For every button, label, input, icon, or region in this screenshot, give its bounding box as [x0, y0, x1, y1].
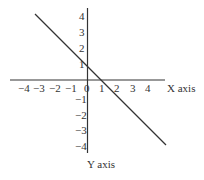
y-tick-label: 3 [79, 26, 85, 38]
y-tick-label: 2 [79, 42, 85, 54]
x-tick-label: 1 [99, 82, 105, 94]
x-tick-label: 3 [130, 82, 136, 94]
y-axis-label: Y axis [87, 158, 115, 170]
chart: −4 −3 −2 −1 0 1 2 3 4 X axis 4 3 2 1 −1 … [0, 0, 204, 180]
y-tick-label: 1 [79, 58, 85, 70]
y-tick-label: −3 [75, 124, 87, 136]
y-tick-label: −2 [75, 109, 87, 121]
x-tick-label: −3 [33, 82, 45, 94]
x-tick-label: 4 [145, 82, 151, 94]
x-tick-label: −4 [18, 82, 30, 94]
y-tick-label: −1 [75, 93, 87, 105]
x-axis-label: X axis [167, 82, 195, 94]
y-tick-label: −4 [75, 140, 87, 152]
x-tick-label: 2 [114, 82, 120, 94]
y-tick-label: 4 [79, 10, 85, 22]
x-tick-label: −2 [49, 82, 61, 94]
